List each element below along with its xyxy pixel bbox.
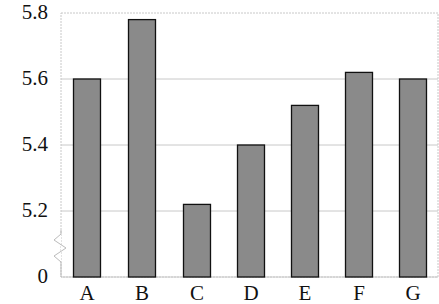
x-tick-label: F bbox=[346, 283, 373, 304]
bar-c bbox=[184, 204, 211, 277]
x-tick-label: E bbox=[292, 283, 319, 304]
plot-area bbox=[0, 0, 439, 304]
bar-chart: 05.25.45.65.8 ABCDEFG bbox=[0, 0, 439, 304]
bar-e bbox=[292, 105, 319, 277]
bar-a bbox=[74, 79, 101, 277]
bar-d bbox=[238, 145, 265, 277]
y-tick-label: 5.8 bbox=[0, 2, 48, 23]
y-tick-label: 5.6 bbox=[0, 68, 48, 89]
y-tick-label: 5.2 bbox=[0, 200, 48, 221]
bar-g bbox=[400, 79, 427, 277]
x-tick-label: D bbox=[238, 283, 265, 304]
bar-b bbox=[129, 20, 156, 277]
x-tick-label: C bbox=[184, 283, 211, 304]
x-tick-label: A bbox=[74, 283, 101, 304]
bar-f bbox=[346, 72, 373, 277]
y-tick-label: 5.4 bbox=[0, 134, 48, 155]
y-tick-label: 0 bbox=[0, 266, 48, 287]
x-tick-label: G bbox=[400, 283, 427, 304]
x-tick-label: B bbox=[129, 283, 156, 304]
